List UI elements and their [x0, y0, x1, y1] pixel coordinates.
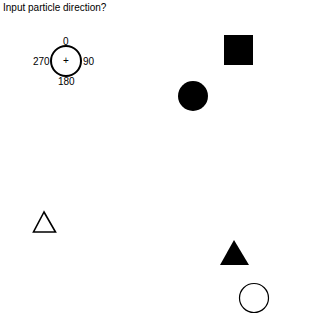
dial-label-90: 90: [83, 56, 94, 67]
filled-square-shape: [224, 35, 253, 65]
outlined-triangle-shape: [34, 212, 56, 232]
filled-triangle-shape: [220, 240, 249, 265]
dial-center-symbol: +: [63, 55, 69, 66]
dial-label-0: 0: [63, 36, 69, 47]
outlined-circle-shape: [240, 284, 269, 313]
dial-label-180: 180: [58, 76, 75, 87]
dial-label-270: 270: [33, 56, 50, 67]
filled-circle-shape: [178, 81, 208, 111]
